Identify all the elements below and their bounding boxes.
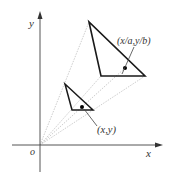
origin-label: o [30,146,35,157]
y-axis-arrow-icon [38,11,43,19]
small-triangle [65,84,93,110]
scaling-diagram: y x o (x/a,y/b) (x,y) [0,0,173,180]
large-point-label: (x/a,y/b) [117,35,151,47]
y-axis-label: y [28,17,34,29]
diagram-canvas: y x o (x/a,y/b) (x,y) [0,0,173,180]
small-point-label: (x,y) [97,124,116,136]
x-axis-arrow-icon [155,143,163,148]
small-point-dot [80,105,84,109]
x-axis-label: x [145,147,151,159]
large-triangle [89,22,145,76]
large-point-leader [122,47,134,74]
